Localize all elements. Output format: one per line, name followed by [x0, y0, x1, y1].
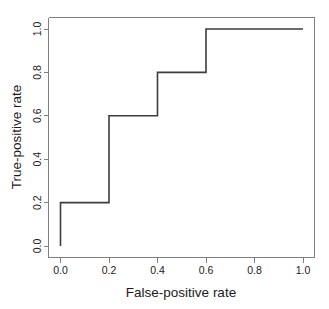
x-tick-label-0: 0.0 [53, 264, 68, 276]
y-tick-label-0: 0.0 [31, 239, 43, 254]
y-tick-label-4: 0.8 [31, 65, 43, 80]
x-tick-label-1: 0.2 [102, 264, 117, 276]
y-axis-tick-labels: 0.0 0.2 0.4 0.6 0.8 1.0 [31, 22, 43, 254]
roc-plot-figure: 0.0 0.2 0.4 0.6 0.8 1.0 0.0 0.2 0.4 0.6 … [0, 0, 329, 309]
x-tick-label-3: 0.6 [199, 264, 214, 276]
roc-curve [61, 29, 304, 246]
y-tick-label-2: 0.4 [31, 152, 43, 167]
y-tick-label-3: 0.6 [31, 108, 43, 123]
x-axis-tick-labels: 0.0 0.2 0.4 0.6 0.8 1.0 [53, 264, 310, 276]
y-tick-label-5: 1.0 [31, 22, 43, 37]
y-axis-ticks [44, 29, 49, 246]
y-tick-label-1: 0.2 [31, 195, 43, 210]
x-axis-title: False-positive rate [126, 285, 236, 300]
roc-plot-canvas: 0.0 0.2 0.4 0.6 0.8 1.0 0.0 0.2 0.4 0.6 … [0, 0, 329, 309]
y-axis-title: True-positive rate [9, 85, 24, 190]
plot-frame [49, 18, 315, 258]
x-axis-ticks [61, 258, 304, 263]
x-tick-label-4: 0.8 [247, 264, 262, 276]
x-tick-label-2: 0.4 [150, 264, 165, 276]
x-tick-label-5: 1.0 [296, 264, 311, 276]
